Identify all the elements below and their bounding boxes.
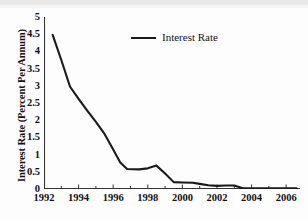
y-tick-label: 4 [16,46,40,57]
chart-legend: Interest Rate [131,32,218,43]
y-tick-label: 3 [16,81,40,92]
y-axis-tick-labels: 00.511.522.533.544.55 [12,0,40,219]
data-series-interest-rate [53,35,297,188]
y-tick-label: 1.5 [16,132,40,143]
x-tick-label: 2006 [266,193,306,204]
legend-label-interest-rate: Interest Rate [162,32,218,43]
x-axis-tick-labels: 19921994199619982000200220042006 [0,193,308,213]
y-tick-label: 0.5 [16,167,40,178]
y-tick-label: 2.5 [16,98,40,109]
y-tick-label: 5 [16,12,40,23]
y-tick-label: 2 [16,115,40,126]
scan-artifact-band-secondary [0,5,308,8]
legend-line-marker [131,37,156,39]
chart-figure: Interest Rate (Percent Per Annum) 00.511… [0,0,308,219]
y-tick-label: 3.5 [16,64,40,75]
y-tick-label: 4.5 [16,29,40,40]
y-tick-label: 1 [16,150,40,161]
